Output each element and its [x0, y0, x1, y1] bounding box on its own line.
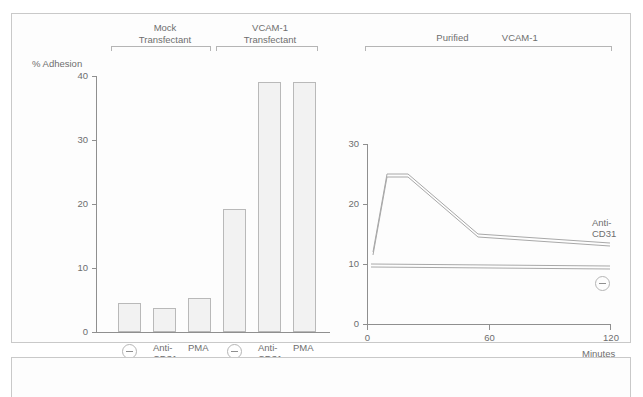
- bar-group-bracket-vcam: [216, 46, 318, 51]
- line-series-minus-shadow: [371, 267, 610, 269]
- line-legend-anti-cd31-line2: CD31: [592, 228, 616, 239]
- bar-y-tick-0: [92, 332, 97, 333]
- line-series-minus: [371, 264, 610, 266]
- line-legend-icon-minus: [595, 276, 610, 291]
- bar-x-axis-line: [96, 332, 330, 333]
- bar-cat-label-pma-mock: PMA: [188, 342, 209, 353]
- bar-y-tick-20: [92, 204, 97, 205]
- line-legend-anti-cd31: Anti- CD31: [592, 217, 616, 239]
- bar-y-tick-label-40: 40: [74, 70, 88, 81]
- bar-group-title-vcam-line2: Transfectant: [215, 34, 325, 46]
- bar-vcam-minus: [223, 209, 246, 332]
- bar-mock-minus: [118, 303, 141, 332]
- bar-y-axis-label: % Adhesion: [32, 58, 82, 69]
- line-chart: Purified VCAM-1 30 20 10 0 0 60 120 Minu…: [342, 14, 632, 344]
- bar-group-title-mock-line1: Mock: [110, 22, 220, 34]
- bar-mock-anti-cd31: [153, 308, 176, 332]
- bar-group-title-vcam-line1: VCAM-1: [215, 22, 325, 34]
- bar-y-tick-label-30: 30: [74, 134, 88, 145]
- bar-cat-label-pma-vcam: PMA: [293, 342, 314, 353]
- bar-y-tick-label-20: 20: [74, 198, 88, 209]
- figure-panel: Mock Transfectant VCAM-1 Transfectant % …: [11, 13, 631, 343]
- line-legend-anti-cd31-line1: Anti-: [592, 217, 616, 228]
- bar-y-tick-label-10: 10: [74, 262, 88, 273]
- bar-y-tick-40: [92, 76, 97, 77]
- bar-group-title-mock: Mock Transfectant: [110, 22, 220, 45]
- line-chart-plot-area: [342, 14, 632, 344]
- bar-group-title-vcam: VCAM-1 Transfectant: [215, 22, 325, 45]
- bar-y-tick-10: [92, 268, 97, 269]
- bar-chart: Mock Transfectant VCAM-1 Transfectant % …: [12, 14, 342, 344]
- bar-vcam-anti-cd31: [258, 82, 281, 332]
- figure-panel-next: [11, 357, 631, 397]
- bar-group-bracket-mock: [111, 46, 211, 51]
- bar-cat-label-anti-cd31-mock-line1: Anti-: [153, 342, 177, 353]
- bar-mock-pma: [188, 298, 211, 332]
- bar-vcam-pma: [293, 82, 316, 332]
- bar-group-title-mock-line2: Transfectant: [110, 34, 220, 46]
- line-series-anti-cd31: [373, 174, 610, 252]
- line-series-anti-cd31-shadow: [373, 177, 610, 255]
- bar-y-tick-30: [92, 140, 97, 141]
- bar-cat-label-anti-cd31-vcam-line1: Anti-: [258, 342, 282, 353]
- bar-y-tick-label-0: 0: [74, 326, 88, 337]
